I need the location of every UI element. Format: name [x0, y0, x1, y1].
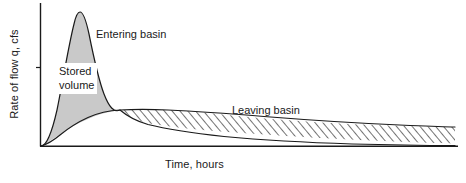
x-axis-label: Time, hours [165, 158, 224, 170]
stored-volume-label-line-2: volume [59, 78, 94, 92]
y-axis [36, 3, 41, 147]
hydrograph-figure: Rate of flow q, cfs Time, hours Entering… [0, 0, 466, 183]
y-axis-label: Rate of flow q, cfs [8, 14, 20, 134]
entering-basin-label: Entering basin [96, 28, 166, 40]
stored-volume-label-line-1: Stored [59, 64, 94, 78]
stored-volume-label: Stored volume [56, 63, 97, 94]
leaving-basin-label: Leaving basin [232, 104, 300, 116]
